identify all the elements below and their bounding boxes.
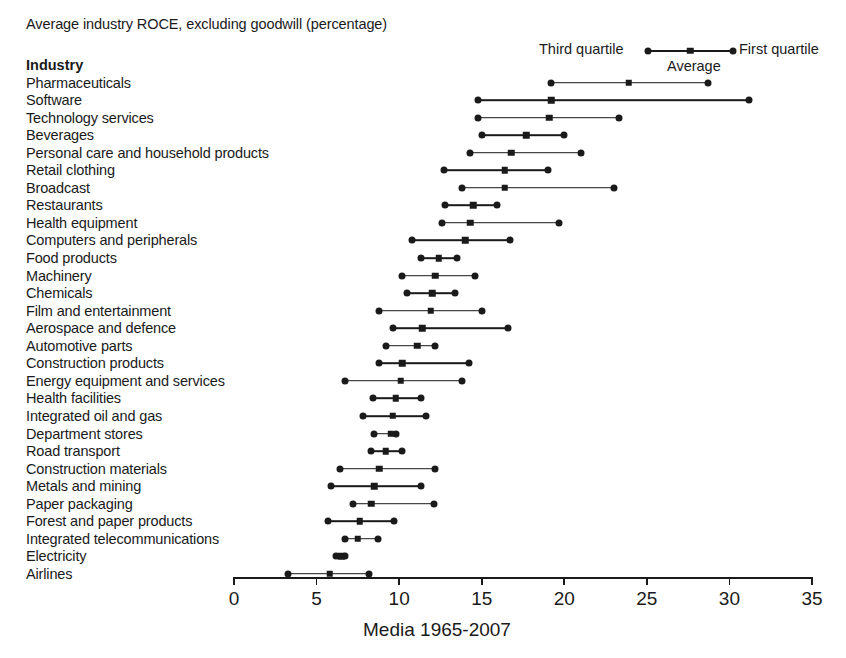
x-axis-tick-label: 20 — [554, 588, 575, 610]
third-quartile-dot-icon — [440, 167, 447, 174]
average-square-icon — [502, 185, 509, 192]
first-quartile-dot-icon — [430, 500, 437, 507]
first-quartile-dot-icon — [506, 237, 513, 244]
range-line — [402, 275, 475, 277]
average-square-icon — [625, 79, 632, 86]
x-axis-tick — [316, 577, 318, 585]
first-quartile-dot-icon — [432, 465, 439, 472]
third-quartile-dot-icon — [376, 307, 383, 314]
x-axis-tick-label: 30 — [719, 588, 740, 610]
third-quartile-dot-icon — [382, 342, 389, 349]
roce-range-dot-plot: Average industry ROCE, excluding goodwil… — [0, 0, 846, 658]
first-quartile-dot-icon — [417, 395, 424, 402]
first-quartile-dot-icon — [392, 430, 399, 437]
average-square-icon — [548, 97, 555, 104]
first-quartile-dot-icon — [505, 325, 512, 332]
third-quartile-dot-icon — [359, 412, 366, 419]
third-quartile-dot-icon — [399, 272, 406, 279]
x-axis-tick-label: 0 — [229, 588, 240, 610]
third-quartile-dot-icon — [336, 465, 343, 472]
average-square-icon — [427, 307, 434, 314]
range-line — [353, 503, 434, 505]
x-axis-tick-label: 25 — [636, 588, 657, 610]
first-quartile-dot-icon — [417, 483, 424, 490]
average-square-icon — [470, 202, 477, 209]
third-quartile-dot-icon — [439, 219, 446, 226]
range-line — [345, 538, 378, 540]
first-quartile-dot-icon — [544, 167, 551, 174]
plot-area — [0, 0, 846, 600]
first-quartile-dot-icon — [391, 518, 398, 525]
third-quartile-dot-icon — [475, 114, 482, 121]
average-square-icon — [419, 325, 426, 332]
average-square-icon — [389, 413, 396, 420]
third-quartile-dot-icon — [328, 483, 335, 490]
third-quartile-dot-icon — [341, 377, 348, 384]
average-square-icon — [398, 378, 405, 385]
x-axis-tick-label: 10 — [389, 588, 410, 610]
first-quartile-dot-icon — [493, 202, 500, 209]
third-quartile-dot-icon — [325, 518, 332, 525]
x-axis-tick — [398, 577, 400, 585]
third-quartile-dot-icon — [475, 97, 482, 104]
average-square-icon — [432, 272, 439, 279]
average-square-icon — [429, 290, 436, 297]
range-line — [379, 363, 468, 365]
first-quartile-dot-icon — [478, 307, 485, 314]
x-axis-title-text: Media 1965-2007 — [363, 619, 511, 641]
third-quartile-dot-icon — [409, 237, 416, 244]
first-quartile-dot-icon — [422, 412, 429, 419]
range-line — [470, 152, 581, 154]
range-line — [444, 169, 548, 171]
first-quartile-dot-icon — [399, 448, 406, 455]
x-axis-tick — [233, 577, 235, 585]
average-square-icon — [546, 114, 553, 121]
third-quartile-dot-icon — [548, 79, 555, 86]
average-square-icon — [502, 167, 509, 174]
first-quartile-dot-icon — [577, 149, 584, 156]
first-quartile-dot-icon — [458, 377, 465, 384]
x-axis-line — [234, 577, 812, 579]
first-quartile-dot-icon — [615, 114, 622, 121]
first-quartile-dot-icon — [465, 360, 472, 367]
third-quartile-dot-icon — [369, 395, 376, 402]
first-quartile-dot-icon — [704, 79, 711, 86]
average-square-icon — [462, 237, 469, 244]
first-quartile-dot-icon — [556, 219, 563, 226]
first-quartile-dot-icon — [453, 255, 460, 262]
average-square-icon — [356, 518, 363, 525]
average-square-icon — [355, 536, 362, 543]
third-quartile-dot-icon — [389, 325, 396, 332]
first-quartile-dot-icon — [341, 553, 348, 560]
first-quartile-dot-icon — [374, 535, 381, 542]
first-quartile-dot-icon — [472, 272, 479, 279]
x-axis-tick-label: 35 — [801, 588, 822, 610]
range-line — [442, 222, 559, 224]
third-quartile-dot-icon — [376, 360, 383, 367]
third-quartile-dot-icon — [417, 255, 424, 262]
third-quartile-dot-icon — [349, 500, 356, 507]
x-axis-tick — [481, 577, 483, 585]
average-square-icon — [371, 483, 378, 490]
range-line — [462, 187, 614, 189]
range-line — [393, 327, 509, 329]
x-axis-tick — [729, 577, 731, 585]
third-quartile-dot-icon — [478, 132, 485, 139]
first-quartile-dot-icon — [452, 290, 459, 297]
average-square-icon — [368, 500, 375, 507]
x-axis-tick — [646, 577, 648, 585]
third-quartile-dot-icon — [467, 149, 474, 156]
third-quartile-dot-icon — [404, 290, 411, 297]
average-square-icon — [436, 255, 443, 262]
range-line — [386, 345, 436, 347]
first-quartile-dot-icon — [610, 184, 617, 191]
x-axis-tick — [811, 577, 813, 585]
average-square-icon — [383, 448, 390, 455]
average-square-icon — [399, 360, 406, 367]
average-square-icon — [376, 465, 383, 472]
average-square-icon — [467, 220, 474, 227]
third-quartile-dot-icon — [458, 184, 465, 191]
average-square-icon — [523, 132, 530, 139]
third-quartile-dot-icon — [371, 430, 378, 437]
first-quartile-dot-icon — [561, 132, 568, 139]
